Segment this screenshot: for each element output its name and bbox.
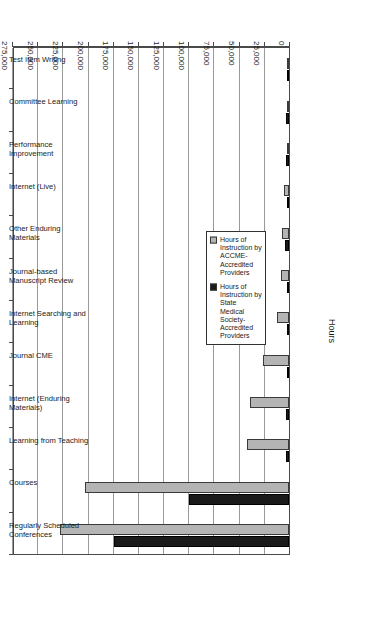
axis-tick-label: 150,000 [126,41,135,70]
category-label: Courses [9,480,93,489]
axis-tick [88,42,89,47]
axis-tick [12,42,13,47]
bar-state-society [287,367,289,378]
axis-tick [264,42,265,47]
axis-tick [163,42,164,47]
legend-item: Hours of Instruction by ACCME-Accredited… [210,236,262,277]
category-tick [9,300,13,301]
chart-figure: 025,00050,00075,000100,000125,000150,000… [0,0,365,619]
axis-tick [138,42,139,47]
axis-tick [188,42,189,47]
bar-accme [247,439,289,450]
category-label: Performance Improvement [9,141,93,158]
category-label: Learning from Teaching [9,437,93,446]
axis-tick-label: 75,000 [202,41,211,65]
category-label: Internet Searching and Learning [9,310,93,327]
category-tick [9,342,13,343]
bar-state-society [287,70,289,81]
category-label: Other Enduring Materials [9,226,93,243]
axis-tick-label: 100,000 [177,41,186,70]
bar-state-society [287,282,289,293]
axis-tick-label: 125,000 [152,41,161,70]
category-tick [9,512,13,513]
category-label: Journal CME [9,353,93,362]
bar-state-society [286,409,289,420]
bar-accme [85,482,289,493]
bar-state-society [285,240,289,251]
axis-tick [113,42,114,47]
legend-swatch-accme [210,237,217,244]
bar-group [14,469,289,511]
axis-tick-label: 50,000 [227,41,236,65]
bar-accme [284,185,289,196]
category-label: Regularly Scheduled Conferences [9,522,93,539]
category-tick [9,173,13,174]
category-tick [9,469,13,470]
category-label: Journal-based Manuscript Review [9,268,93,285]
bar-state-society [114,536,289,547]
bar-accme [281,270,289,281]
category-tick [9,385,13,386]
category-tick [9,88,13,89]
category-label: Internet (Enduring Materials) [9,395,93,412]
bar-state-society [189,494,289,505]
legend-item: Hours of Instruction by State Medical So… [210,283,262,340]
bar-group [14,88,289,130]
axis-tick-label: 25,000 [252,41,261,65]
axis-tick-label: 175,000 [101,41,110,70]
legend-label: Hours of Instruction by State Medical So… [220,283,262,340]
chart-plot-area: 025,00050,00075,000100,000125,000150,000… [0,0,365,619]
bar-accme [263,355,289,366]
bar-state-society [287,324,289,335]
bar-accme [287,58,289,69]
axis-tick [37,42,38,47]
axis-tick [213,42,214,47]
bar-state-society [286,451,289,462]
chart-legend: Hours of Instruction by ACCME-Accredited… [206,231,266,345]
category-label: Internet (Live) [9,183,93,192]
bar-state-society [286,113,289,124]
category-tick [9,427,13,428]
axis-tick-label: 0 [278,41,287,45]
axis-tick [62,42,63,47]
category-tick [9,215,13,216]
bar-accme [287,143,289,154]
value-axis-title: Hours [327,319,337,343]
category-tick [9,258,13,259]
bar-accme [60,524,289,535]
bar-accme [287,101,289,112]
bar-group [14,173,289,215]
category-label: Test Item Writing [9,56,93,65]
bar-state-society [286,155,289,166]
axis-tick [239,42,240,47]
category-tick [9,554,13,555]
category-label: Committee Learning [9,99,93,108]
bar-group [14,427,289,469]
bar-accme [277,312,289,323]
bar-accme [282,228,289,239]
bar-state-society [287,197,289,208]
category-tick [9,131,13,132]
bar-group [14,342,289,384]
legend-label: Hours of Instruction by ACCME-Accredited… [220,236,262,277]
legend-swatch-state [210,284,217,291]
bar-accme [250,397,289,408]
axis-tick [289,42,290,47]
